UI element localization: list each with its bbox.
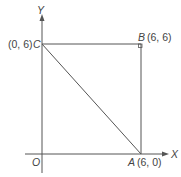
- y-axis-label: Y: [37, 4, 45, 16]
- coordinate-diagram: Y X O (0, 6) C B (6, 6) A (6, 0): [0, 0, 181, 177]
- x-axis-label: X: [170, 148, 179, 160]
- point-b-coords: (6, 6): [147, 31, 172, 43]
- x-axis-arrow-icon: [162, 152, 169, 157]
- point-c-coords: (0, 6): [8, 38, 33, 50]
- point-a-coords: (6, 0): [137, 156, 162, 168]
- point-a-label: A: [127, 156, 135, 168]
- point-c-label: C: [33, 38, 41, 50]
- origin-label: O: [32, 156, 40, 168]
- segment-ca: [42, 44, 141, 154]
- point-b-label: B: [138, 31, 145, 43]
